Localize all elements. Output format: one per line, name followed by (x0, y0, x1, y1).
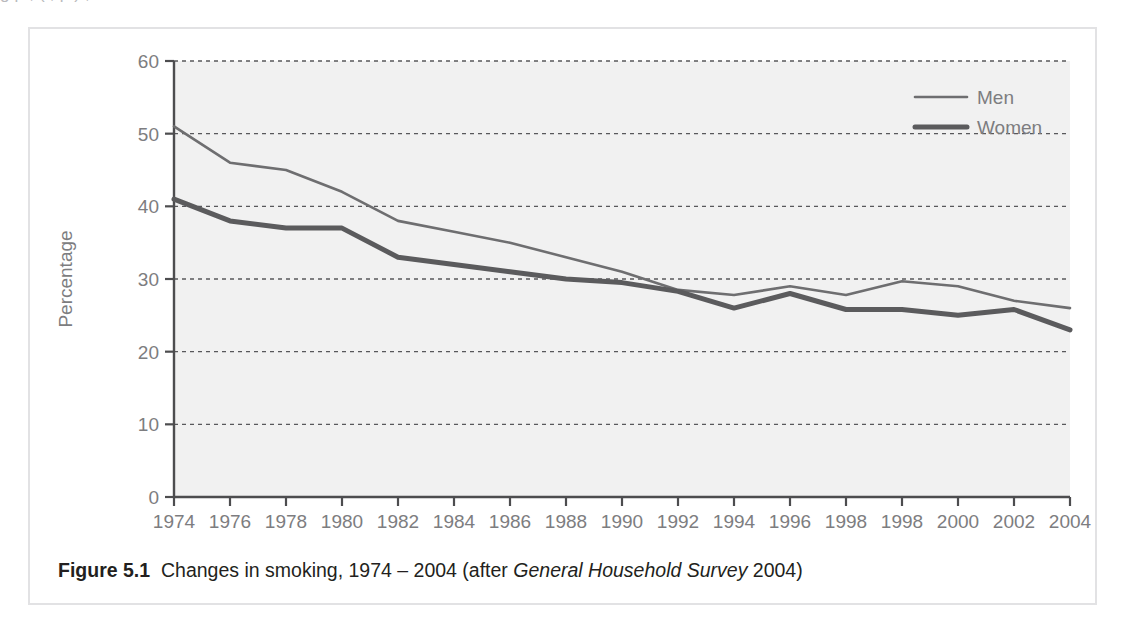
figure-caption: Figure 5.1 Changes in smoking, 1974 – 20… (58, 559, 1078, 582)
legend-label-men: Men (977, 87, 1014, 108)
x-tick-label: 1998 (825, 511, 867, 532)
x-tick-label: 1980 (321, 511, 363, 532)
legend-label-women: Women (977, 117, 1042, 138)
x-tick-label: 2002 (993, 511, 1035, 532)
x-tick-label: 1982 (377, 511, 419, 532)
x-tick-label: 1976 (209, 511, 251, 532)
chart-svg: 0102030405060 19741976197819801982198419… (30, 29, 1099, 549)
x-tick-label: 1998 (881, 511, 923, 532)
y-axis: 0102030405060 (138, 51, 174, 508)
x-tick-label: 2000 (937, 511, 979, 532)
x-tick-label: 1994 (713, 511, 756, 532)
figure-caption-source: General Household Survey (513, 559, 747, 581)
x-tick-label: 1984 (433, 511, 476, 532)
y-tick-label: 60 (138, 51, 159, 72)
figure-caption-text: Changes in smoking, 1974 – 2004 (after (161, 559, 513, 581)
x-tick-label: 1974 (153, 511, 196, 532)
x-tick-label: 2004 (1049, 511, 1092, 532)
page-top-cut-text: g p , ( , p ) , (0, 0, 1127, 14)
figure-caption-label: Figure 5.1 (58, 559, 150, 581)
x-tick-label: 1988 (545, 511, 587, 532)
x-axis: 1974197619781980198219841986198819901992… (153, 497, 1092, 532)
y-tick-label: 20 (138, 342, 159, 363)
y-tick-label: 30 (138, 269, 159, 290)
y-tick-label: 0 (148, 487, 159, 508)
line-chart: 0102030405060 19741976197819801982198419… (30, 29, 1099, 549)
y-tick-label: 10 (138, 414, 159, 435)
x-tick-label: 1990 (601, 511, 643, 532)
x-axis-title: Year (603, 548, 642, 549)
y-axis-title: Percentage (55, 230, 76, 327)
page-top-cut-text-value: g p , ( , p ) , (0, 0, 90, 3)
x-tick-label: 1996 (769, 511, 811, 532)
figure-caption-text-after: 2004) (747, 559, 802, 581)
figure-container: 0102030405060 19741976197819801982198419… (28, 27, 1097, 605)
x-tick-label: 1986 (489, 511, 531, 532)
y-tick-label: 50 (138, 124, 159, 145)
x-tick-label: 1992 (657, 511, 699, 532)
x-tick-label: 1978 (265, 511, 307, 532)
y-tick-label: 40 (138, 196, 159, 217)
